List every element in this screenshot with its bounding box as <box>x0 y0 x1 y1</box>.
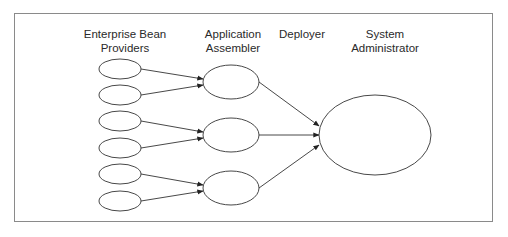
provider-node <box>99 191 141 211</box>
arrow-edge <box>141 191 203 201</box>
provider-node <box>99 138 141 158</box>
provider-node <box>99 111 141 131</box>
system-administrator-node <box>319 95 431 175</box>
arrow-edge <box>259 145 319 188</box>
arrow-edge <box>259 82 319 126</box>
arrow-edge <box>141 85 203 95</box>
assembler-node <box>203 118 259 152</box>
provider-node <box>99 164 141 184</box>
flow-diagram <box>0 0 508 237</box>
assembler-node <box>203 171 259 205</box>
arrow-edge <box>141 138 203 148</box>
provider-node <box>99 59 141 79</box>
arrow-edge <box>141 121 203 132</box>
arrow-edge <box>141 69 203 79</box>
assembler-node <box>203 65 259 99</box>
provider-node <box>99 85 141 105</box>
arrow-edge <box>141 174 203 185</box>
